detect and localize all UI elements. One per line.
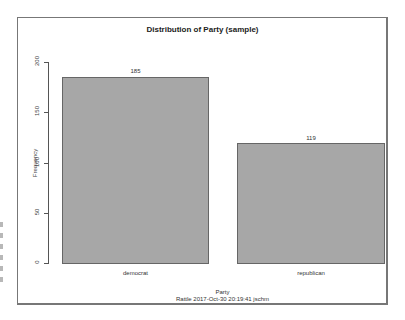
bar-value-label: 185 [62,68,209,74]
y-axis-title: Frequency [32,138,38,188]
y-tick [44,213,48,214]
x-category-label: democrat [62,270,209,276]
x-category-label: republican [237,270,385,276]
y-tick-label: 0 [34,252,40,272]
y-tick-label: 200 [34,51,40,71]
chart-subtitle: Rattle 2017-Oct-30 20:19:41 jschm [40,296,405,302]
y-tick-label: 150 [34,101,40,121]
y-tick [44,62,48,63]
y-tick [44,163,48,164]
bar-republican [237,143,385,264]
x-axis-title: Party [40,289,405,295]
y-tick [44,112,48,113]
y-axis [48,62,49,264]
bar-democrat [62,77,209,264]
y-tick [44,263,48,264]
bar-value-label: 119 [237,135,385,141]
chart-title: Distribution of Party (sample) [0,25,405,34]
y-tick-label: 50 [34,202,40,222]
clipped-text-fragment [0,222,4,292]
